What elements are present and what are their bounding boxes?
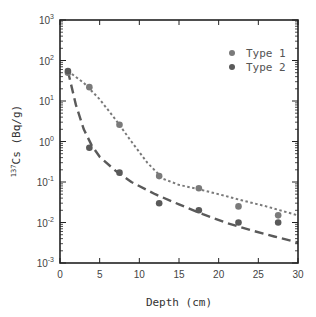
legend: Type 1Type 2 (229, 47, 286, 74)
data-point-type-1 (116, 121, 123, 128)
legend-label: Type 2 (246, 61, 286, 74)
legend-marker (229, 64, 235, 70)
data-point-type-1 (235, 203, 242, 210)
x-tick-label: 30 (292, 269, 304, 280)
y-tick-label: 100 (39, 135, 54, 148)
x-tick-label: 25 (253, 269, 265, 280)
y-axis-title-main: Cs (Bq/g) (10, 105, 23, 165)
y-tick-label: 102 (39, 54, 54, 67)
fit-line-type-1 (68, 71, 298, 215)
x-tick-label: 0 (57, 269, 63, 280)
data-point-type-2 (275, 219, 282, 226)
data-point-type-2 (235, 219, 242, 226)
y-tick-label: 10-3 (37, 256, 54, 269)
y-tick-label: 101 (39, 94, 54, 107)
svg-text:137Cs (Bq/g): 137Cs (Bq/g) (10, 105, 23, 177)
data-points (65, 68, 282, 226)
x-tick-label: 20 (213, 269, 225, 280)
y-tick-label: 10-2 (37, 216, 54, 229)
data-point-type-2 (196, 207, 203, 214)
legend-marker (229, 50, 235, 56)
y-axis-title: 137Cs (Bq/g) (10, 105, 23, 177)
x-axis-title: Depth (cm) (146, 296, 212, 309)
chart: 10310210110010-110-210-3 051015202530 Ty… (0, 0, 316, 317)
x-tick-label: 15 (173, 269, 185, 280)
data-point-type-2 (156, 200, 163, 207)
fit-line-type-2 (68, 71, 298, 243)
y-tick-label: 10-1 (37, 175, 54, 188)
y-tick-label: 103 (39, 13, 54, 26)
data-point-type-2 (65, 68, 72, 75)
data-point-type-1 (86, 84, 93, 91)
x-tick-label: 5 (97, 269, 103, 280)
data-point-type-1 (196, 185, 203, 192)
data-point-type-1 (275, 212, 282, 219)
fit-lines (68, 71, 298, 243)
data-point-type-2 (86, 144, 93, 151)
x-tick-label: 10 (134, 269, 146, 280)
y-axis-title-sup: 137 (10, 164, 18, 177)
data-point-type-2 (116, 169, 123, 176)
legend-label: Type 1 (246, 47, 286, 60)
data-point-type-1 (156, 173, 163, 180)
